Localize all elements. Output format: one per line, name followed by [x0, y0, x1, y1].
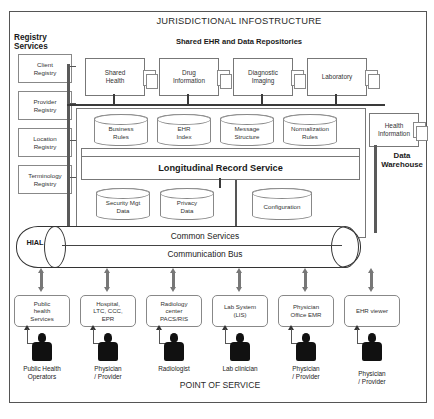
health-information-box[interactable]: Health Information	[369, 113, 419, 147]
store-label: Business Rules	[108, 120, 133, 141]
pos-system-physician-emr[interactable]: Physician Office EMR	[278, 295, 334, 327]
hial-label: HIAL	[19, 238, 51, 247]
person-icon	[230, 333, 250, 361]
common-services-label: Common Services	[70, 231, 340, 241]
registry-services-header: Registry Services	[14, 33, 70, 51]
bus-connector-arrow	[236, 268, 243, 292]
shared-repositories-header: Shared EHR and Data Repositories	[125, 38, 353, 47]
person-icon	[362, 333, 382, 361]
actor-label-physician-2: Physician / Provider	[274, 365, 338, 382]
data-warehouse-label: Data Warehouse	[374, 152, 430, 169]
document-stack-icon	[365, 70, 378, 86]
store-security-mgt-data[interactable]: Security Mgt Data	[96, 188, 150, 220]
store-label: EHR Index	[176, 120, 191, 141]
store-label: Message Structure	[234, 120, 259, 141]
bus-connector-arrow	[302, 268, 309, 292]
store-label: Privacy Data	[177, 194, 197, 215]
store-configuration[interactable]: Configuration	[252, 188, 312, 220]
document-stack-icon	[143, 70, 156, 86]
registry-terminology[interactable]: Terminology Registry	[18, 165, 72, 194]
actor-label-public-health: Public Health Operators	[8, 365, 76, 382]
repository-bus-line	[67, 104, 385, 106]
communication-bus-label: Communication Bus	[70, 249, 340, 259]
store-label: Configuration	[264, 198, 301, 211]
store-message-structure[interactable]: Message Structure	[220, 114, 274, 146]
diagram-canvas: JURISDICTIONAL INFOSTRUCTURE Shared EHR …	[0, 0, 434, 419]
store-privacy-data[interactable]: Privacy Data	[160, 188, 214, 220]
actor-label-radiologist: Radiologist	[142, 365, 206, 373]
pos-system-radiology[interactable]: Radiology center PACS/RIS	[146, 295, 202, 327]
data-warehouse-trunk	[374, 145, 377, 233]
pos-system-public-health[interactable]: Public health Services	[14, 295, 70, 327]
document-stack-icon	[217, 70, 230, 86]
repository-drug-information[interactable]: Drug Information	[159, 58, 219, 96]
lrs-drop-line	[219, 178, 221, 188]
bus-connector-arrow	[104, 268, 111, 292]
repository-drop-3	[261, 94, 263, 105]
document-stack-icon	[291, 70, 304, 86]
registry-provider[interactable]: Provider Registry	[18, 91, 72, 120]
bus-connector-arrow	[38, 268, 45, 292]
pos-system-lab[interactable]: Lab System (LIS)	[212, 295, 268, 327]
actor-label-lab-clinician: Lab clinician	[208, 365, 272, 373]
pos-system-ehr-viewer[interactable]: EHR viewer	[344, 295, 400, 327]
store-normalization-rules[interactable]: Normalization Rules	[283, 114, 337, 146]
registry-client[interactable]: Client Registry	[18, 54, 72, 83]
repository-shared-health[interactable]: Shared Health	[85, 58, 145, 96]
page-title: JURISDICTIONAL INFOSTRUCTURE	[108, 16, 370, 27]
repository-laboratory[interactable]: Laboratory	[307, 58, 367, 96]
store-label: Security Mgt Data	[106, 194, 140, 215]
document-stack-icon	[413, 122, 426, 138]
registry-location[interactable]: Location Registry	[18, 128, 72, 157]
store-ehr-index[interactable]: EHR Index	[157, 114, 211, 146]
store-label: Normalization Rules	[291, 120, 329, 141]
repository-diagnostic-imaging[interactable]: Diagnostic Imaging	[233, 58, 293, 96]
actor-label-physician-3: Physician / Provider	[340, 370, 404, 387]
actor-label-physician-1: Physician / Provider	[76, 365, 140, 382]
person-icon	[164, 333, 184, 361]
pos-system-hospital[interactable]: Hospital, LTC, CCC, EPR	[80, 295, 136, 327]
registry-trunk-line	[67, 64, 70, 242]
point-of-service-label: POINT OF SERVICE	[150, 381, 290, 391]
person-icon	[32, 333, 52, 361]
bus-left-end-ellipse	[44, 226, 66, 268]
repository-drop-1	[113, 94, 115, 105]
repository-drop-4	[335, 94, 337, 105]
person-icon	[296, 333, 316, 361]
longitudinal-record-service-bar[interactable]: Longitudinal Record Service	[81, 156, 360, 180]
bus-connector-arrow	[368, 268, 375, 292]
repository-drop-2	[187, 94, 189, 105]
registry-stub-1	[70, 66, 76, 67]
person-icon	[98, 333, 118, 361]
store-business-rules[interactable]: Business Rules	[94, 114, 148, 146]
bus-connector-arrow	[170, 268, 177, 292]
bus-midline	[62, 245, 342, 246]
